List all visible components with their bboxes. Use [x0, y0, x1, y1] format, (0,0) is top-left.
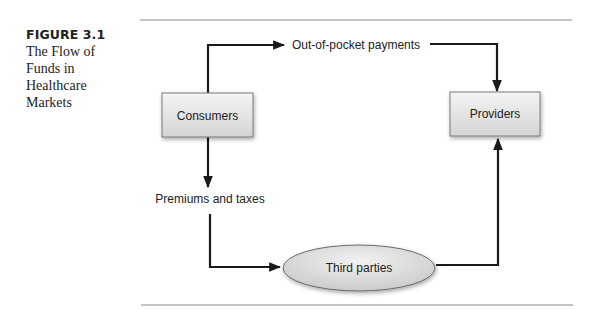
arrow-premiums-to-third-parties: [210, 214, 280, 267]
arrow-consumers-to-out-of-pocket: [208, 45, 284, 93]
arrow-third-parties-to-providers: [436, 139, 498, 265]
edge-label-out-of-pocket: Out-of-pocket payments: [292, 38, 420, 52]
node-third-parties-label: Third parties: [326, 261, 393, 275]
arrow-out-of-pocket-to-providers: [430, 44, 497, 91]
node-consumers-label: Consumers: [177, 109, 238, 123]
node-providers: Providers: [450, 92, 540, 136]
node-consumers: Consumers: [162, 93, 253, 137]
node-providers-label: Providers: [470, 107, 521, 121]
node-third-parties: Third parties: [283, 245, 435, 291]
edge-label-premiums-taxes: Premiums and taxes: [155, 192, 264, 206]
flow-diagram: Consumers Providers Third parties Out-of…: [0, 0, 601, 309]
